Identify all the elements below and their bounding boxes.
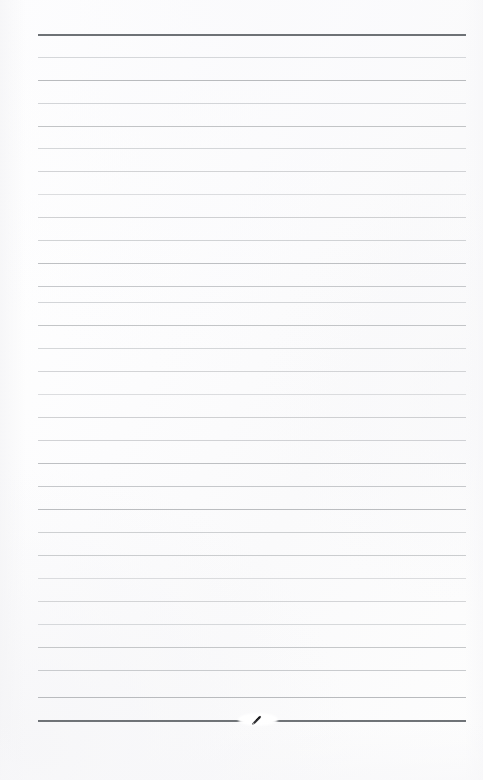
ruled-line (38, 240, 466, 241)
notepad-page (0, 0, 483, 780)
ruled-line (38, 601, 466, 602)
ruled-line (38, 720, 466, 722)
ruled-line (38, 486, 466, 487)
paper-surface (0, 0, 483, 780)
ruled-line (38, 463, 466, 464)
ruled-line (38, 148, 466, 149)
ruled-line (38, 286, 466, 287)
ruled-line (38, 509, 466, 510)
ruled-line (38, 697, 466, 698)
ruled-line (38, 325, 466, 326)
ruled-line (38, 217, 466, 218)
ruled-line (38, 126, 466, 127)
ruled-line (38, 624, 466, 625)
ruled-line (38, 417, 466, 418)
ruled-line (38, 532, 466, 533)
ruled-line (38, 348, 466, 349)
ruled-line (38, 555, 466, 556)
ruled-line (38, 194, 466, 195)
ruled-line (38, 34, 466, 36)
ruled-line (38, 647, 466, 648)
ruled-line (38, 670, 466, 671)
ruled-line (38, 103, 466, 104)
ruled-line (38, 394, 466, 395)
ruled-line (38, 57, 466, 58)
ruled-line (38, 578, 466, 579)
ruled-line (38, 171, 466, 172)
ruled-line (38, 80, 466, 81)
ruled-line (38, 371, 466, 372)
ruled-line (38, 440, 466, 441)
ruled-line (38, 263, 466, 264)
ruled-line (38, 302, 466, 303)
